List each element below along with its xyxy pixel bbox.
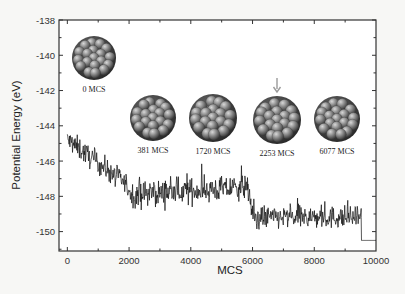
y-tick-label: -142 [36,85,55,96]
x-tick-label: 8000 [304,255,325,266]
y-tick-label: -150 [36,226,55,237]
snapshot-label: 0 MCS [83,85,106,94]
cluster-snapshot: 6077 MCS [314,96,360,156]
y-axis-title: Potential Energy (eV) [10,80,22,189]
snapshot-label: 1720 MCS [196,147,231,156]
y-tick-label: -148 [36,191,55,202]
x-tick-label: 4000 [180,255,201,266]
x-tick-label: 6000 [242,255,263,266]
y-tick-label: -140 [36,50,55,61]
x-tick-label: 10000 [363,255,389,266]
snapshot-label: 6077 MCS [320,147,355,156]
x-tick-label: 0 [65,255,70,266]
x-tick-label: 2000 [118,255,139,266]
y-tick-label: -138 [36,15,55,26]
y-tick-label: -144 [36,120,55,131]
snapshot-label: 381 MCS [138,146,169,155]
snapshot-label: 2253 MCS [260,149,295,158]
potential-energy-chart: -138-140-142-144-146-148-150 02000400060… [0,0,405,294]
y-tick-label: -146 [36,156,55,167]
cluster-snapshot: 1720 MCS [189,94,237,156]
x-axis-title: MCS [217,264,243,276]
